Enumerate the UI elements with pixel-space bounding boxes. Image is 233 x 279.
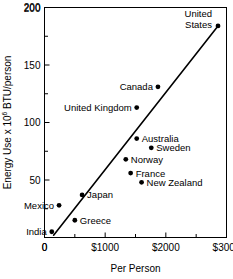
data-point-marker [216,24,221,29]
x-axis-title: Per Person [110,263,160,274]
x-axis-tick-label: $1000 [91,242,119,253]
data-point-label: United [185,8,212,19]
data-point-marker [72,218,77,223]
data-point-label: States [185,19,212,30]
data-point-label: Norway [131,154,163,165]
data-point-label: New Zealand [147,177,203,188]
data-point-marker [57,203,62,208]
y-axis-tick-label: 150 [24,60,41,71]
data-point-marker [128,171,133,176]
data-point-new-zealand: New Zealand [139,177,202,188]
data-point-marker [123,157,128,162]
data-point-marker [139,180,144,185]
data-point-label: Greece [80,215,111,226]
y-axis-tick-label: 50 [29,175,41,186]
y-axis-tick-label: 200 [24,3,41,14]
data-point-marker [134,105,139,110]
x-axis-zero-label: 0 [42,242,48,253]
energy-use-scatter-chart: 0$1000$2000$3000501001502002000IndiaMexi… [0,0,233,279]
x-axis-tick-label: $3000 [213,242,233,253]
data-point-label: Japan [87,189,113,200]
data-point-marker [80,193,85,198]
data-point-marker [149,145,154,150]
data-point-marker [49,229,54,234]
data-point-label: United Kingdom [64,102,132,113]
data-point-label: Canada [120,81,154,92]
data-point-australia: Australia [134,133,179,144]
x-axis-tick-label: $2000 [152,242,180,253]
data-point-label: India [26,226,47,237]
data-point-label: Mexico [24,200,54,211]
data-point-label: Australia [142,133,180,144]
y-axis-tick-label: 100 [24,117,41,128]
data-point-marker [156,84,161,89]
plot-frame [45,8,227,238]
chart-canvas: 0$1000$2000$3000501001502002000IndiaMexi… [0,0,233,279]
y-axis-title: Energy Use x 106 BTU/person [1,56,13,190]
data-point-united-kingdom: United Kingdom [64,102,139,113]
data-point-marker [134,136,139,141]
